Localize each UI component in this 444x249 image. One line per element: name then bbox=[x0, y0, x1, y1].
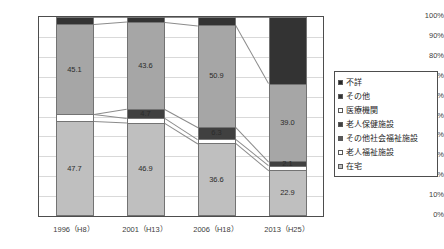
connector-line bbox=[164, 123, 198, 144]
chart-legend: 不詳その他医療機関老人保健施設その他社会福祉施設老人福祉施設在宅 bbox=[334, 71, 438, 177]
bar-segment-label: 6.3 bbox=[211, 129, 221, 137]
bar-segment: 4.7 bbox=[127, 109, 165, 118]
x-axis-tick-label: 2006（H18） bbox=[176, 223, 256, 234]
legend-item: その他社会福祉施設 bbox=[338, 131, 435, 145]
legend-item-label: 老人福祉施設 bbox=[346, 148, 394, 157]
connector-line bbox=[94, 22, 127, 25]
bar-segment-label: 43.6 bbox=[138, 62, 153, 70]
bar-segment: 2.1 bbox=[269, 161, 307, 165]
bar-segment: 22.9 bbox=[269, 170, 307, 216]
bar-segment bbox=[127, 17, 165, 22]
legend-swatch-icon bbox=[338, 164, 343, 169]
connector-line bbox=[165, 17, 198, 18]
bar-column: 46.94.743.6 bbox=[127, 17, 165, 216]
bar-segment: 6.3 bbox=[198, 127, 236, 140]
y-axis-tick-label: 80% bbox=[410, 52, 444, 60]
bar-segment: 45.1 bbox=[56, 24, 94, 114]
connector-line bbox=[94, 109, 127, 115]
legend-swatch-icon bbox=[338, 150, 343, 155]
x-axis-tick-label: 2013（H25） bbox=[247, 223, 327, 234]
bar-segment: 36.6 bbox=[198, 143, 236, 216]
legend-item: その他 bbox=[338, 89, 435, 103]
bar-segment-label: 45.1 bbox=[67, 66, 82, 74]
y-axis-tick-label: 100% bbox=[410, 12, 444, 20]
connector-line bbox=[94, 17, 127, 18]
legend-item-label: 医療機関 bbox=[346, 106, 378, 115]
chart-root: 100%90%80%70%60%50%40%30%20%10%0% 47.745… bbox=[0, 0, 444, 249]
legend-swatch-icon bbox=[338, 108, 343, 113]
bar-segment: 39.0 bbox=[269, 84, 307, 162]
legend-item: 老人保健施設 bbox=[338, 117, 435, 131]
legend-item-label: 老人保健施設 bbox=[346, 120, 394, 129]
bar-segment-label: 22.9 bbox=[280, 189, 295, 197]
bar-segment: 46.9 bbox=[127, 123, 165, 216]
bar-segment: 43.6 bbox=[127, 22, 165, 109]
bar-segment: 50.9 bbox=[198, 25, 236, 126]
connector-line bbox=[235, 25, 269, 84]
connector-line bbox=[236, 17, 269, 18]
x-axis-tick-label: 2001（H13） bbox=[105, 223, 185, 234]
bar-segment-label: 46.9 bbox=[138, 165, 153, 173]
legend-swatch-icon bbox=[338, 136, 343, 141]
bar-segment: 47.7 bbox=[56, 121, 94, 216]
legend-item: 在宅 bbox=[338, 159, 435, 173]
legend-item-label: 在宅 bbox=[346, 162, 362, 171]
y-axis-tick-label: 90% bbox=[410, 32, 444, 40]
bar-segment-label: 47.7 bbox=[67, 165, 82, 173]
bar-column: 22.92.139.0 bbox=[269, 17, 307, 216]
bar-segment bbox=[56, 17, 94, 24]
y-axis-tick-label: 0% bbox=[410, 211, 444, 219]
bar-segment-label: 36.6 bbox=[209, 176, 224, 184]
legend-swatch-icon bbox=[338, 122, 343, 127]
legend-swatch-icon bbox=[338, 94, 343, 99]
legend-item: 医療機関 bbox=[338, 103, 435, 117]
legend-item-label: 不詳 bbox=[346, 78, 362, 87]
legend-swatch-icon bbox=[338, 80, 343, 85]
y-axis-tick-label: 10% bbox=[410, 191, 444, 199]
bar-segment bbox=[269, 17, 307, 84]
bar-segment bbox=[56, 114, 94, 121]
legend-item: 老人福祉施設 bbox=[338, 145, 435, 159]
bar-column: 47.745.1 bbox=[56, 17, 94, 216]
bar-segment bbox=[198, 139, 236, 143]
bar-segment bbox=[127, 118, 165, 123]
connector-line bbox=[164, 22, 197, 27]
bar-segment-label: 4.7 bbox=[140, 110, 150, 118]
legend-item-label: その他社会福祉施設 bbox=[346, 134, 418, 143]
bar-segment bbox=[198, 17, 236, 25]
connector-line bbox=[93, 121, 126, 124]
bar-segment-label: 39.0 bbox=[280, 119, 295, 127]
legend-item: 不詳 bbox=[338, 75, 435, 89]
bar-column: 36.66.350.9 bbox=[198, 17, 236, 216]
bar-segment-label: 50.9 bbox=[209, 72, 224, 80]
x-axis-tick-label: 1996（H8） bbox=[34, 223, 114, 234]
legend-item-label: その他 bbox=[346, 92, 370, 101]
plot-area: 47.745.146.94.743.636.66.350.922.92.139.… bbox=[38, 16, 324, 217]
